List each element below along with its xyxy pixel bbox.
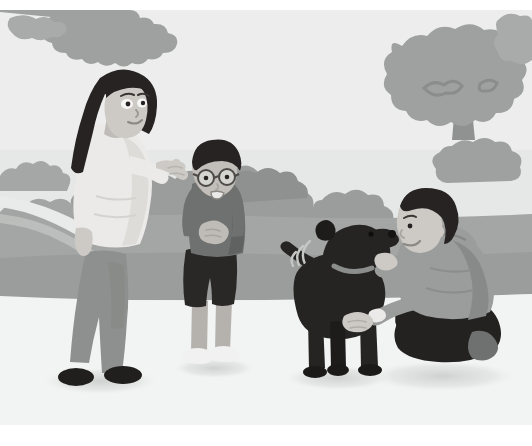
illustration-canvas: Park scene illustration: family greeting…	[0, 0, 532, 446]
woman-pupil-right	[141, 101, 145, 105]
dog-paw-3	[358, 364, 382, 376]
shadow-man	[370, 361, 514, 391]
dog-leg-front-left	[308, 317, 325, 371]
dog-paw-1	[303, 366, 327, 378]
man-eye	[408, 224, 413, 229]
woman-pupil-left	[126, 102, 131, 107]
dog-nose	[388, 230, 396, 238]
park-scene-illustration	[0, 0, 532, 446]
boy-leg-left	[191, 299, 208, 353]
dog-paw-2	[327, 364, 349, 376]
tree-canopy-far-right	[494, 14, 532, 65]
woman-shoe-right	[104, 366, 142, 384]
boy-pupil-right	[225, 175, 230, 180]
dog-eye	[368, 231, 373, 236]
woman-shoe-left	[58, 368, 94, 386]
scene-content	[0, 10, 532, 425]
dog-leg-front-right	[330, 321, 346, 371]
boy-pupil-left	[204, 176, 209, 181]
boy-shoe-right	[208, 346, 239, 362]
boy-leg-right	[215, 299, 232, 351]
